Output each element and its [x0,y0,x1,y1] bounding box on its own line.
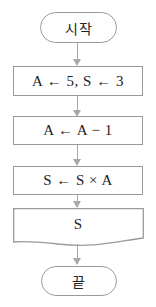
end-terminal: 끝 [41,266,117,296]
arrow-start-to-step1 [77,43,78,65]
end-label: 끝 [72,271,86,291]
arrow-step2-to-step3 [77,145,78,165]
arrow-step3-to-output [77,195,78,207]
process-init-text: A ← 5, S ← 3 [32,73,124,90]
output-text: S [74,216,82,233]
arrow-output-to-end [77,244,78,264]
process-decrement-a-text: A ← A − 1 [43,122,113,139]
process-multiply-s-text: S ← S × A [43,172,113,189]
start-label: 시작 [65,18,92,38]
arrow-step1-to-step2 [77,96,78,116]
process-multiply-s: S ← S × A [13,166,143,195]
output-document: S [13,208,143,241]
start-terminal: 시작 [40,12,117,43]
process-decrement-a: A ← A − 1 [13,116,143,145]
process-init: A ← 5, S ← 3 [13,66,143,96]
